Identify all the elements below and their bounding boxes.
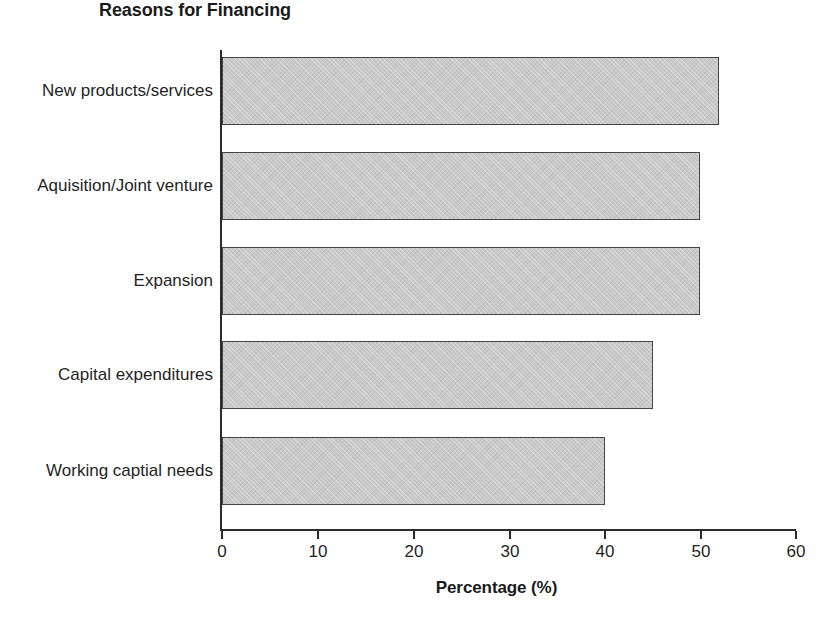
plot-area: 0 10 20 30 40 50 60 <box>222 50 796 529</box>
x-tick-label-60: 60 <box>774 542 818 562</box>
bar-aquisition-joint-venture <box>222 152 700 220</box>
category-label-new-products-services: New products/services <box>42 82 213 100</box>
x-tick-label-50: 50 <box>679 542 723 562</box>
x-tick-mark-10 <box>317 531 319 539</box>
bar-expansion <box>222 247 700 315</box>
chart-title: Reasons for Financing <box>99 0 291 21</box>
x-tick-mark-60 <box>795 531 797 539</box>
x-tick-label-0: 0 <box>200 542 244 562</box>
bar-working-captial-needs <box>222 437 605 505</box>
x-tick-label-20: 20 <box>392 542 436 562</box>
x-tick-mark-0 <box>221 531 223 539</box>
category-label-working-captial-needs: Working captial needs <box>46 462 213 480</box>
bar-new-products-services <box>222 57 719 125</box>
x-tick-mark-20 <box>413 531 415 539</box>
x-axis-title-wrapper: Percentage (%) <box>0 578 823 598</box>
x-tick-mark-30 <box>509 531 511 539</box>
x-tick-label-30: 30 <box>488 542 532 562</box>
x-tick-label-40: 40 <box>583 542 627 562</box>
x-axis-line <box>220 529 796 531</box>
x-tick-mark-50 <box>700 531 702 539</box>
bar-capital-expenditures <box>222 341 653 409</box>
x-axis-title: Percentage (%) <box>436 578 557 598</box>
bar-chart: Reasons for Financing 0 10 20 30 <box>0 0 823 625</box>
x-tick-mark-40 <box>604 531 606 539</box>
category-label-capital-expenditures: Capital expenditures <box>58 366 213 384</box>
x-tick-label-10: 10 <box>296 542 340 562</box>
category-label-expansion: Expansion <box>134 272 213 290</box>
category-label-aquisition-joint-venture: Aquisition/Joint venture <box>37 177 213 195</box>
